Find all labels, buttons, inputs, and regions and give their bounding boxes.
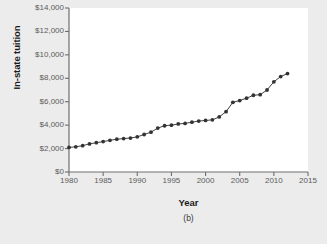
data-point: [81, 144, 85, 148]
figure-container: In-state tuition $0$2,000$4,000$6,000$8,…: [0, 0, 327, 244]
data-point: [94, 141, 98, 145]
data-point: [67, 146, 71, 150]
data-point: [108, 138, 112, 142]
axis-lines: [69, 8, 308, 172]
data-point: [286, 72, 290, 76]
data-point: [211, 118, 215, 122]
data-point: [74, 145, 78, 149]
data-point: [251, 93, 255, 97]
data-point: [217, 115, 221, 119]
x-axis-tick-label: 2015: [288, 176, 327, 185]
data-point: [101, 140, 105, 144]
data-point: [265, 88, 269, 92]
data-point: [129, 136, 133, 140]
tuition-series-line: [69, 74, 288, 148]
data-point: [149, 130, 153, 134]
data-point: [163, 124, 167, 128]
data-point: [183, 121, 187, 125]
data-point: [272, 80, 276, 84]
data-point: [238, 99, 242, 103]
data-point: [142, 133, 146, 137]
data-point: [88, 142, 92, 146]
data-point: [204, 119, 208, 123]
data-point: [279, 75, 283, 79]
data-point: [258, 93, 262, 97]
data-point: [197, 119, 201, 123]
data-point: [224, 110, 228, 114]
data-point: [122, 137, 126, 141]
data-point: [176, 122, 180, 126]
data-point: [115, 137, 119, 141]
data-point: [190, 120, 194, 124]
data-point: [135, 135, 139, 139]
data-point: [245, 96, 249, 100]
data-point: [231, 100, 235, 104]
chart-plot-area: [0, 0, 327, 244]
data-point: [170, 123, 174, 127]
data-point: [156, 126, 160, 130]
tuition-series-markers: [67, 72, 289, 150]
